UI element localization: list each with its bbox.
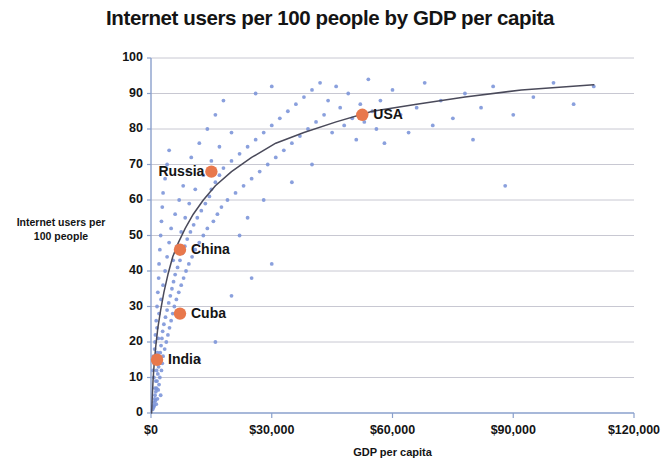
scatter-point [286,109,290,113]
scatter-point [176,266,180,270]
scatter-point [199,209,203,213]
scatter-point [379,99,383,103]
scatter-point [156,290,160,294]
y-tick-label: 10 [103,370,143,384]
scatter-point [218,173,222,177]
scatter-point [294,102,298,106]
scatter-point [290,180,294,184]
scatter-point [187,262,191,266]
scatter-point [572,102,576,106]
highlighted-points [151,109,369,366]
scatter-point [159,393,163,397]
scatter-point [160,337,164,341]
scatter-point [168,326,172,330]
scatter-point [173,273,177,277]
scatter-point [216,212,220,216]
scatter-point [164,340,168,344]
scatter-point [346,92,350,96]
scatter-point [156,397,160,401]
scatter-point [238,234,242,238]
scatter-point [185,237,189,241]
scatter-point [274,156,278,160]
scatter-point [220,205,224,209]
scatter-point [270,262,274,266]
scatter-point [167,148,171,152]
scatter-point [169,319,173,323]
scatter-point [222,99,226,103]
scatter-point [310,88,314,92]
highlight-marker-cuba [174,307,186,319]
x-axis-tick-marks [151,413,634,418]
scatter-point [195,216,199,220]
scatter-point [189,156,193,160]
scatter-point [290,141,294,145]
highlight-marker-india [151,354,163,366]
scatter-point [184,269,188,273]
scatter-point [183,216,187,220]
scatter-point [250,177,254,181]
x-tick-label: $60,000 [343,423,443,437]
scatter-point [161,191,165,195]
scatter-point [159,234,163,238]
scatter-point [163,347,167,351]
y-tick-label: 60 [103,192,143,206]
scatter-point [254,138,258,142]
highlight-marker-china [174,244,186,256]
scatter-point [168,294,172,298]
point-label-india: India [168,351,201,367]
scatter-point [214,180,218,184]
point-label-china: China [191,241,230,257]
scatter-point [226,198,230,202]
scatter-point [262,198,266,202]
scatter-point [471,138,475,142]
scatter-point [201,234,205,238]
x-tick-label: $0 [101,423,201,437]
scatter-point [160,369,164,373]
scatter-point [270,85,274,89]
scatter-point [552,81,556,85]
scatter-point [218,145,222,149]
scatter-point [214,113,218,117]
scatter-point [192,223,196,227]
scatter-point [322,113,326,117]
scatter-point [160,205,164,209]
point-label-usa: USA [373,106,403,122]
point-label-cuba: Cuba [191,305,226,321]
scatter-point [230,159,234,163]
scatter-point [258,170,262,174]
scatter-point [156,372,160,376]
scatter-point [174,298,178,302]
y-tick-label: 80 [103,121,143,135]
scatter-point [158,248,162,252]
scatter-point [161,283,165,287]
scatter-point [203,202,207,206]
scatter-point [415,106,419,110]
scatter-point [178,258,182,262]
scatter-point [318,81,322,85]
scatter-point [205,127,209,131]
scatter-point [177,198,181,202]
scatter-point [193,187,197,191]
scatter-point [163,269,167,273]
scatter-point [391,88,395,92]
scatter-point [154,319,158,323]
highlight-marker-usa [356,109,368,121]
scatter-point [334,85,338,89]
scatter-point [302,95,306,99]
scatter-point [250,276,254,280]
scatter-point [314,120,318,124]
scatter-point [451,116,455,120]
y-tick-label: 90 [103,86,143,100]
scatter-point [342,124,346,128]
scatter-point [383,141,387,145]
scatter-point [211,219,215,223]
scatter-point [230,294,234,298]
scatter-point [423,81,427,85]
scatter-point [189,230,193,234]
scatter-point [222,166,226,170]
scatter-point [209,159,213,163]
scatter-point [358,102,362,106]
scatter-point [326,99,330,103]
scatter-point [278,116,282,120]
scatter-point [338,106,342,110]
